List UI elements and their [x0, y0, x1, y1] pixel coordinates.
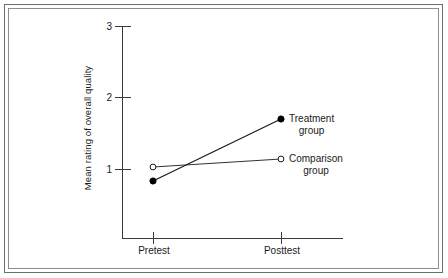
series-label-comparison: Comparison group [289, 153, 343, 177]
series-line-treatment [153, 119, 281, 181]
y-tick-label-1: 1 [98, 164, 112, 175]
data-point-comparison-pretest [150, 164, 156, 170]
line-chart-plot [0, 0, 448, 278]
data-point-treatment-posttest [278, 116, 284, 122]
y-axis-title: Mean rating of overall quality [82, 18, 93, 238]
series-label-comparison-line1: Comparison [289, 153, 343, 164]
series-label-treatment-line1: Treatment [289, 113, 334, 124]
series-label-treatment-line2: group [289, 125, 334, 137]
y-tick-label-3: 3 [98, 21, 112, 32]
data-point-treatment-pretest [150, 178, 156, 184]
x-tick-label-posttest: Posttest [254, 245, 310, 256]
y-tick-label-2: 2 [98, 92, 112, 103]
series-line-comparison [153, 159, 281, 167]
figure-container: Mean rating of overall quality 3 2 1 Pre… [0, 0, 448, 278]
series-label-comparison-line2: group [289, 165, 343, 177]
series-label-treatment: Treatment group [289, 113, 334, 137]
x-tick-label-pretest: Pretest [128, 245, 180, 256]
data-point-comparison-posttest [278, 156, 284, 162]
